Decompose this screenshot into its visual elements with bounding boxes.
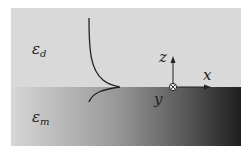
z-arrowhead-icon <box>171 56 176 63</box>
z-axis-label: z <box>159 48 167 66</box>
x-arrowhead-icon <box>204 85 211 90</box>
dielectric-permittivity-label: εd <box>32 40 46 59</box>
metal-permittivity-label: εm <box>32 108 50 127</box>
x-axis-label: x <box>203 66 211 84</box>
surface-plasmon-diagram: εd εm z x y <box>11 8 241 146</box>
y-axis-label: y <box>154 90 162 108</box>
y-into-page-icon <box>169 83 176 90</box>
field-profile-curve <box>89 18 120 102</box>
